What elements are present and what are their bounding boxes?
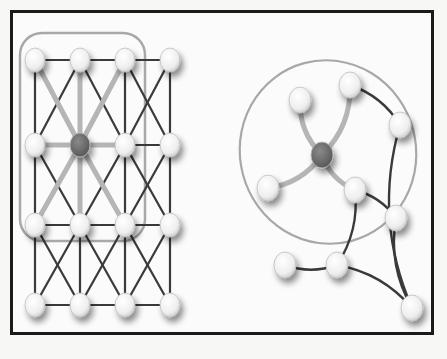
- grid-graph: [20, 33, 180, 317]
- grid-node: [115, 48, 135, 72]
- grid-node: [160, 48, 180, 72]
- graph-node: [274, 252, 296, 278]
- grid-node: [115, 133, 135, 157]
- grid-node: [115, 213, 135, 237]
- grid-center-node: [70, 133, 90, 157]
- grid-node: [25, 213, 45, 237]
- grid-node: [160, 133, 180, 157]
- grid-node: [160, 213, 180, 237]
- grid-node: [115, 293, 135, 317]
- grid-node: [70, 213, 90, 237]
- graph-comparison-diagram: [0, 0, 447, 359]
- grid-node: [25, 133, 45, 157]
- graph-node: [339, 72, 361, 98]
- grid-node: [25, 48, 45, 72]
- graph-node: [385, 205, 407, 231]
- graph-center-node: [311, 142, 333, 168]
- graph-node: [344, 177, 366, 203]
- graph-node: [289, 87, 311, 113]
- grid-node: [70, 48, 90, 72]
- arbitrary-graph: [219, 40, 437, 321]
- graph-node: [326, 252, 348, 278]
- grid-node: [25, 293, 45, 317]
- grid-node: [160, 293, 180, 317]
- grid-node: [70, 293, 90, 317]
- graph-node: [401, 295, 423, 321]
- graph-node: [389, 112, 411, 138]
- graph-edge: [394, 218, 412, 308]
- graph-node: [257, 175, 279, 201]
